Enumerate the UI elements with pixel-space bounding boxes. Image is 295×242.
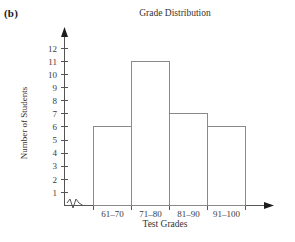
y-tick-label-11: 11 bbox=[48, 57, 57, 67]
y-tick-label-9: 9 bbox=[53, 83, 58, 93]
bar-71-80 bbox=[132, 61, 170, 205]
y-tick-label-4: 4 bbox=[53, 148, 58, 158]
x-tick-label-91-100: 91–100 bbox=[213, 209, 241, 219]
y-tick-label-1: 1 bbox=[53, 188, 58, 198]
histogram-plot: 1 2 3 4 5 6 7 8 9 10 11 12 61–70 71–80 8… bbox=[0, 0, 295, 242]
y-tick-label-10: 10 bbox=[48, 70, 58, 80]
x-tick-label-81-90: 81–90 bbox=[177, 209, 200, 219]
y-tick-label-6: 6 bbox=[53, 122, 58, 132]
bar-91-100 bbox=[208, 127, 246, 206]
y-tick-label-5: 5 bbox=[53, 135, 58, 145]
x-tick-label-61-70: 61–70 bbox=[101, 209, 124, 219]
y-axis-arrow-icon bbox=[61, 27, 68, 37]
y-tick-label-3: 3 bbox=[53, 161, 58, 171]
y-tick-label-7: 7 bbox=[53, 109, 58, 119]
bar-61-70 bbox=[94, 127, 132, 206]
x-axis-arrow-icon bbox=[264, 202, 274, 209]
y-tick-label-12: 12 bbox=[48, 44, 57, 54]
y-tick-label-2: 2 bbox=[53, 175, 58, 185]
bar-81-90 bbox=[170, 114, 208, 206]
x-tick-label-71-80: 71–80 bbox=[139, 209, 162, 219]
y-tick-label-8: 8 bbox=[53, 96, 58, 106]
axis-break-icon bbox=[67, 199, 83, 208]
figure-panel-b: (b) Grade Distribution Number of Student… bbox=[0, 0, 295, 242]
